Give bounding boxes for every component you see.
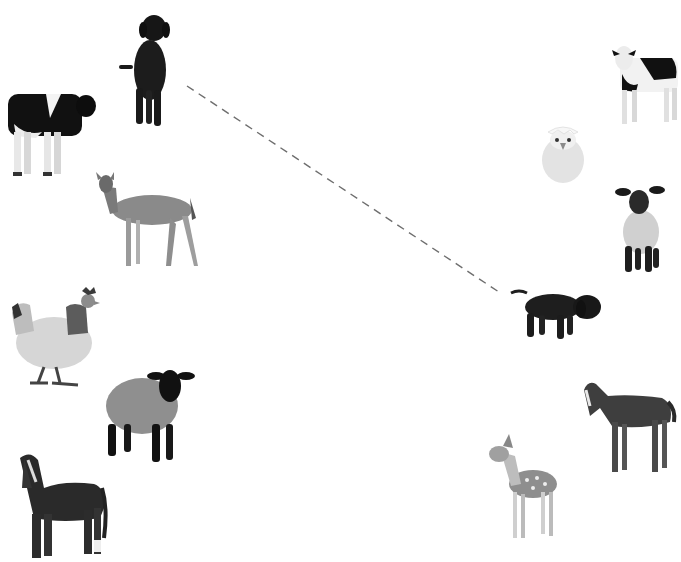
puppy-image[interactable]: puppy [511, 289, 603, 341]
sheep-image[interactable]: sheep [104, 368, 194, 466]
chick-egg-icon [540, 122, 586, 184]
hen-icon [8, 285, 100, 389]
dog-icon [116, 10, 180, 128]
foal-image[interactable]: foal [582, 376, 676, 476]
calf-icon [610, 44, 680, 128]
dog-image[interactable]: dog [116, 10, 180, 128]
deer-icon [88, 168, 200, 272]
chick-egg-image[interactable]: chick in egg [540, 122, 586, 184]
lamb-icon [615, 184, 665, 274]
deer-image[interactable]: deer [88, 168, 200, 272]
lamb-image[interactable]: lamb [615, 184, 665, 274]
puppy-icon [511, 289, 603, 341]
hen-image[interactable]: hen [8, 285, 100, 389]
horse-icon [14, 448, 108, 560]
fawn-image[interactable]: fawn [487, 432, 559, 542]
foal-icon [582, 376, 676, 476]
cow-icon [6, 88, 98, 180]
cow-image[interactable]: cow [6, 88, 98, 180]
fawn-icon [487, 432, 559, 542]
horse-image[interactable]: horse [14, 448, 108, 560]
calf-image[interactable]: calf [610, 44, 680, 128]
sheep-icon [104, 368, 194, 466]
